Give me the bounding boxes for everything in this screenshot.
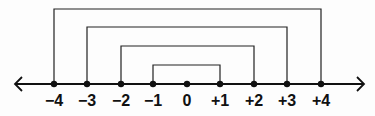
tick-label: +4 [306, 92, 336, 110]
tick-label: −4 [39, 92, 69, 110]
tick-label: −3 [72, 92, 102, 110]
tick-label: +2 [239, 92, 269, 110]
point-marker [184, 81, 190, 87]
point-marker [217, 81, 223, 87]
point-marker [284, 81, 290, 87]
bracket [87, 27, 287, 84]
tick-label: 0 [172, 92, 202, 110]
tick-label: +1 [205, 92, 235, 110]
tick-label: −2 [106, 92, 136, 110]
point-marker [150, 81, 156, 87]
point-marker [118, 81, 124, 87]
tick-label: +3 [272, 92, 302, 110]
point-marker [318, 81, 324, 87]
point-marker [251, 81, 257, 87]
number-line-diagram: −4 −3 −2 −1 0 +1 +2 +3 +4 [0, 0, 375, 116]
point-marker [84, 81, 90, 87]
opposite-pair-brackets [54, 9, 321, 84]
tick-label: −1 [138, 92, 168, 110]
point-marker [51, 81, 57, 87]
